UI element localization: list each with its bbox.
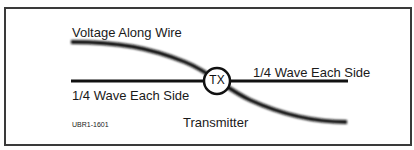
diagram-title: Voltage Along Wire [72,25,182,40]
left-wire-label: 1/4 Wave Each Side [72,88,189,103]
transmitter-node-label: TX [204,73,230,87]
right-wire-label: 1/4 Wave Each Side [253,65,370,80]
transmitter-caption: Transmitter [183,115,248,130]
figure-code: UBR1-1601 [72,121,109,128]
